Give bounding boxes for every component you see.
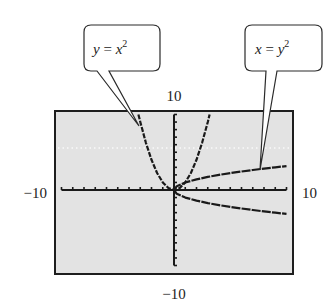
xmin-label: −10: [24, 185, 47, 201]
callout-label-left: y = x2: [91, 38, 127, 57]
graph-figure: 10 −10 −10 10 y = x2 x = y2: [0, 0, 335, 307]
callout-label-right: x = y2: [254, 38, 289, 57]
ymax-label: 10: [167, 88, 182, 104]
xmax-label: 10: [302, 185, 317, 201]
calculator-graph: 10 −10 −10 10 y = x2 x = y2: [0, 0, 335, 307]
ymin-label: −10: [162, 286, 185, 302]
